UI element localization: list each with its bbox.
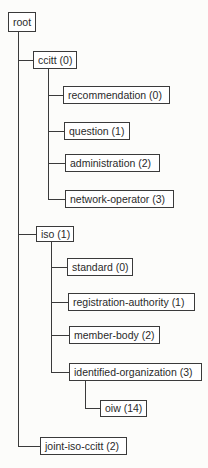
iso-to-identified-org-line xyxy=(51,372,69,373)
iso-to-member-body-line xyxy=(51,335,69,336)
iso-to-standard-line xyxy=(51,267,67,268)
root-to-iso-line xyxy=(18,234,36,235)
node-iso: iso (1) xyxy=(36,226,74,242)
node-registration-authority: registration-authority (1) xyxy=(68,293,195,311)
iso-to-registration-line xyxy=(51,302,68,303)
node-standard: standard (0) xyxy=(67,258,133,276)
ccitt-to-administration-line xyxy=(48,163,65,164)
identified-org-to-oiw-line xyxy=(85,408,100,409)
node-oiw: oiw (14) xyxy=(100,400,147,417)
root-to-ccitt-line xyxy=(18,60,33,61)
node-ccitt: ccitt (0) xyxy=(33,51,77,69)
ccitt-to-question-line xyxy=(48,131,64,132)
node-administration: administration (2) xyxy=(65,154,160,172)
node-member-body: member-body (2) xyxy=(69,326,160,344)
identified-org-trunk-line xyxy=(85,381,86,409)
ccitt-trunk-line xyxy=(48,68,49,199)
node-question: question (1) xyxy=(64,122,130,140)
ccitt-to-network-operator-line xyxy=(48,199,65,200)
iso-trunk-line xyxy=(51,241,52,372)
node-network-operator: network-operator (3) xyxy=(65,190,174,208)
node-identified-organization: identified-organization (3) xyxy=(69,363,202,381)
node-root: root xyxy=(8,12,36,32)
node-recommendation: recommendation (0) xyxy=(63,86,170,104)
root-trunk-line xyxy=(18,32,19,447)
node-joint-iso-ccitt: joint-iso-ccitt (2) xyxy=(40,437,127,455)
root-to-joint-line xyxy=(18,446,40,447)
ccitt-to-recommendation-line xyxy=(48,95,63,96)
